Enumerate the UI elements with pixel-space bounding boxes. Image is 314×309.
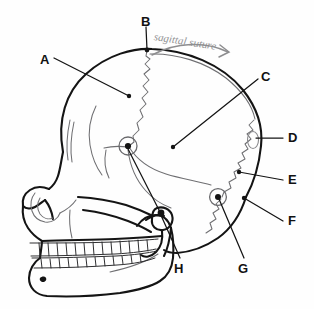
sphenoid-greater-wing — [104, 146, 128, 148]
lambdoid-suture — [222, 120, 254, 197]
pterion-marker-dot — [125, 143, 131, 149]
maxilla-detail — [70, 210, 72, 238]
leader-dot-B — [145, 48, 150, 53]
mental-foramen — [40, 277, 47, 283]
leader-line-A — [54, 58, 129, 96]
zygomatic-body-detail — [60, 200, 76, 213]
asterion-marker-dot — [215, 194, 221, 200]
leader-line-B — [146, 27, 147, 50]
label-B: B — [141, 15, 150, 28]
frontal-crease-1 — [67, 120, 70, 160]
label-C: C — [261, 70, 270, 83]
leader-line-E — [239, 172, 283, 180]
worksheet-page: A B C D E F G H sagittal suture — [0, 0, 314, 309]
squamosal-suture-lower — [128, 150, 171, 208]
suture-and-detail-group — [31, 50, 255, 282]
nasal-aperture-outline — [23, 200, 45, 208]
label-D: D — [288, 131, 297, 144]
label-F: F — [288, 214, 296, 227]
leader-line-H2 — [128, 149, 160, 212]
sphenoid-edge — [105, 150, 109, 178]
tooth-dividers-upper — [39, 240, 148, 256]
label-E: E — [288, 173, 297, 186]
orbit-brow-outline — [23, 187, 49, 206]
lower-teeth-bottom — [34, 258, 155, 268]
label-A: A — [40, 53, 49, 66]
label-H: H — [174, 262, 183, 275]
markers-group — [119, 132, 259, 217]
leader-line-C — [173, 79, 258, 147]
leader-dot-C — [171, 145, 175, 149]
leader-dot-F — [242, 196, 246, 200]
leader-line-F — [244, 198, 283, 221]
nasal-bone — [45, 200, 53, 219]
cranial-vault-outline — [61, 49, 261, 197]
mastoid-process — [141, 231, 162, 257]
leader-line-G — [219, 199, 244, 258]
squamosal-suture — [129, 147, 211, 185]
skull-diagram — [0, 0, 314, 309]
occipital-base — [177, 197, 246, 253]
curved-arrow-head — [219, 45, 229, 57]
label-G: G — [238, 262, 248, 275]
coronal-suture — [129, 50, 150, 146]
frontal-bone-outline — [49, 152, 63, 189]
frontal-crease-2 — [71, 122, 74, 162]
leader-dot-A — [127, 94, 131, 98]
skull-outline-group — [23, 49, 262, 296]
zygomatic-arch — [78, 197, 153, 216]
leader-dot-E — [237, 170, 241, 174]
temporal-line — [89, 106, 102, 175]
